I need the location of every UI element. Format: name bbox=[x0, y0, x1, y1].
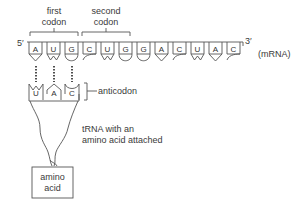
mrna-strand: AUGCUGGACUAC bbox=[29, 42, 240, 61]
base-pair-bonds bbox=[36, 66, 72, 82]
anticodon-base-U: U bbox=[29, 84, 43, 100]
svg-text:U: U bbox=[195, 45, 201, 54]
mrna-base-A: A bbox=[29, 42, 42, 61]
svg-text:A: A bbox=[51, 89, 57, 98]
second-codon-label-line1: second bbox=[91, 6, 120, 16]
anticodon-label: anticodon bbox=[98, 86, 137, 96]
translation-diagram: first codon second codon 5′ 3′ (mRNA) AU… bbox=[0, 0, 307, 213]
svg-text:G: G bbox=[140, 45, 146, 54]
mrna-base-G: G bbox=[137, 42, 150, 61]
mrna-label: (mRNA) bbox=[258, 49, 291, 59]
anticodon-bracket bbox=[84, 83, 97, 100]
amino-acid-label-line1: amino bbox=[40, 172, 65, 182]
svg-text:C: C bbox=[69, 89, 75, 98]
amino-acid-label-line2: acid bbox=[44, 183, 61, 193]
mrna-base-C: C bbox=[83, 42, 96, 60]
mrna-base-U: U bbox=[101, 42, 114, 60]
first-codon-label-line1: first bbox=[47, 6, 62, 16]
second-codon-label-line2: codon bbox=[94, 17, 119, 27]
second-codon-label: second codon bbox=[82, 6, 130, 36]
trna-strand-left bbox=[30, 101, 52, 166]
mrna-base-G: G bbox=[119, 42, 132, 61]
first-codon-label-line2: codon bbox=[42, 17, 67, 27]
svg-text:C: C bbox=[87, 45, 93, 54]
trna-strand-right bbox=[54, 101, 78, 166]
trna-label-line2: amino acid attached bbox=[82, 135, 163, 145]
svg-text:U: U bbox=[51, 45, 57, 54]
mrna-base-C: C bbox=[227, 42, 240, 60]
mrna-base-U: U bbox=[191, 42, 204, 60]
five-prime-label: 5′ bbox=[17, 38, 24, 48]
mrna-base-U: U bbox=[47, 42, 60, 60]
first-codon-label: first codon bbox=[30, 6, 78, 36]
first-codon-bracket bbox=[30, 28, 78, 36]
anticodon: UAC bbox=[29, 84, 79, 101]
svg-text:A: A bbox=[159, 45, 165, 54]
trna-label-line1: tRNA with an bbox=[82, 124, 134, 134]
mrna-base-G: G bbox=[65, 42, 78, 61]
svg-text:U: U bbox=[105, 45, 111, 54]
svg-text:A: A bbox=[213, 45, 219, 54]
svg-text:C: C bbox=[231, 45, 237, 54]
svg-text:U: U bbox=[33, 89, 39, 98]
svg-text:G: G bbox=[68, 45, 74, 54]
anticodon-base-C: C bbox=[65, 84, 79, 100]
mrna-base-A: A bbox=[209, 42, 222, 61]
svg-text:C: C bbox=[177, 45, 183, 54]
second-codon-bracket bbox=[82, 28, 130, 36]
mrna-base-C: C bbox=[173, 42, 186, 60]
svg-text:A: A bbox=[33, 45, 39, 54]
anticodon-base-A: A bbox=[47, 84, 61, 100]
mrna-backbone bbox=[27, 42, 243, 46]
three-prime-label: 3′ bbox=[245, 36, 252, 46]
svg-text:G: G bbox=[122, 45, 128, 54]
mrna-base-A: A bbox=[155, 42, 168, 61]
